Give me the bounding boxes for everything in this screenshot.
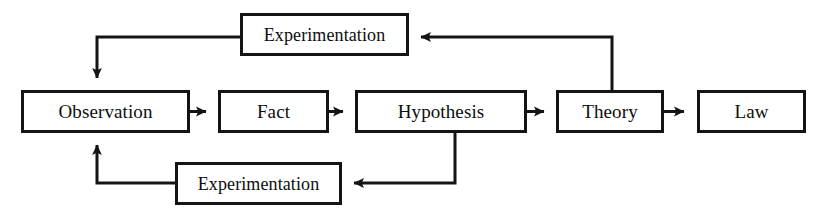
node-label-hypothesis: Hypothesis: [398, 102, 485, 121]
node-label-theory: Theory: [582, 102, 637, 121]
node-law: Law: [697, 90, 806, 133]
node-label-law: Law: [734, 102, 768, 121]
edge-theory-to-experimentation-top: [421, 37, 612, 90]
node-theory: Theory: [556, 90, 664, 133]
node-label-experimentation-bottom: Experimentation: [198, 175, 319, 193]
scientific-method-flowchart: Experimentation Observation Fact Hypothe…: [0, 0, 826, 211]
node-experimentation-top: Experimentation: [240, 13, 409, 56]
edge-experimentation-top-to-observation: [97, 37, 240, 78]
edge-hypothesis-to-experimentation-bottom: [354, 133, 455, 183]
node-experimentation-bottom: Experimentation: [175, 162, 342, 205]
node-label-observation: Observation: [59, 102, 153, 121]
node-label-fact: Fact: [257, 102, 290, 121]
node-hypothesis: Hypothesis: [355, 90, 527, 133]
node-fact: Fact: [218, 90, 329, 133]
node-observation: Observation: [21, 90, 190, 133]
node-label-experimentation-top: Experimentation: [264, 26, 385, 44]
edge-experimentation-bottom-to-observation: [97, 145, 175, 183]
